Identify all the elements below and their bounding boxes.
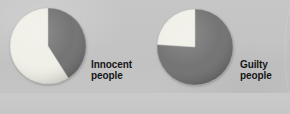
pie-chart-area: Innocent people Guilty people <box>0 0 290 93</box>
legend: Judged innocent by polygraph Judged guil… <box>0 93 290 114</box>
pie-label-innocent-line2: people <box>91 70 123 81</box>
pie-label-innocent-people: Innocent people <box>91 60 132 81</box>
pie-label-guilty-line2: people <box>240 70 272 81</box>
pie-shading-circle <box>10 8 86 84</box>
figure-canvas: Innocent people Guilty people Judged inn… <box>0 0 290 114</box>
pie-label-guilty-people: Guilty people <box>240 60 272 81</box>
pie-label-guilty-line1: Guilty <box>240 59 268 70</box>
pie-shading-circle <box>157 9 233 85</box>
pie-label-innocent-line1: Innocent <box>91 59 132 70</box>
